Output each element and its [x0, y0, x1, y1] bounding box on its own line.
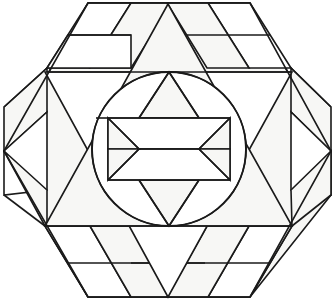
quilt-diagram [0, 0, 336, 303]
quilt-figure [0, 0, 336, 303]
